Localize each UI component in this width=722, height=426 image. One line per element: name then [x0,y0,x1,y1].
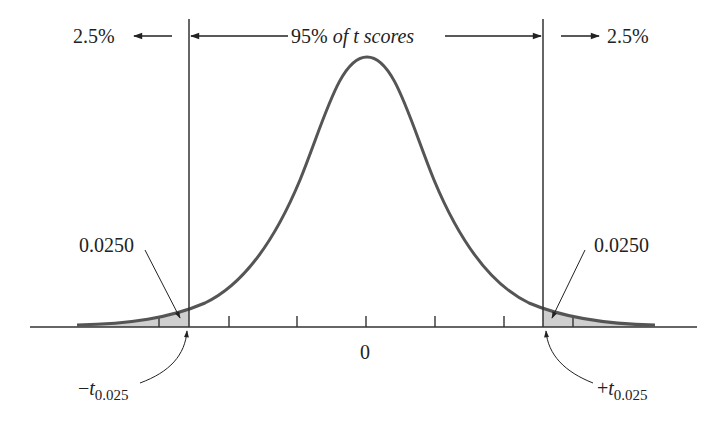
left-crit-symbol: t [89,377,95,399]
middle-text: of t scores [333,25,414,47]
right-area-pointer [552,250,585,318]
right-crit-symbol: t [608,377,614,399]
x-ticks [159,316,573,327]
left-area-pointer [145,250,180,318]
left-tail-area: 0.0250 [79,235,134,255]
right-tail-percent: 2.5% [607,26,649,46]
right-crit-pointer [546,331,593,383]
left-crit-sub: 0.025 [95,387,129,403]
left-crit-sign: − [78,377,89,399]
left-critical-value: −t0.025 [78,378,129,398]
right-crit-sub: 0.025 [614,387,648,403]
middle-percent-label: 95% of t scores [291,26,414,46]
right-crit-sign: + [597,377,608,399]
left-tail-percent: 2.5% [73,26,115,46]
left-crit-pointer [140,331,187,383]
right-critical-value: +t0.025 [597,378,648,398]
middle-percent: 95% [291,25,328,47]
right-tail-area: 0.0250 [594,235,649,255]
zero-tick-label: 0 [360,342,370,362]
